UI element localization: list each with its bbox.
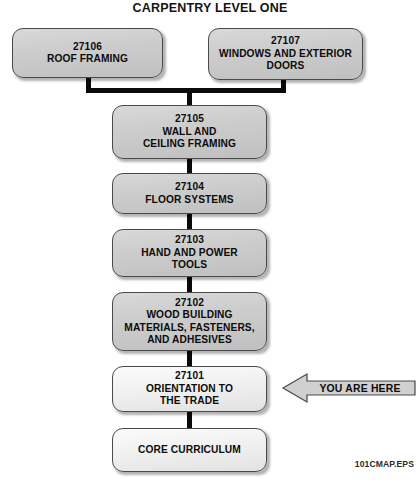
node-27107-number: 27107 [271, 35, 300, 47]
node-27101-line-2: THE TRADE [160, 395, 219, 407]
connector-top-bus [86, 88, 286, 93]
page-title: CARPENTRY LEVEL ONE [0, 1, 420, 15]
node-27106-number: 27106 [73, 41, 102, 53]
node-27101-line-1: ORIENTATION TO [146, 383, 233, 395]
node-27106[interactable]: 27106 ROOF FRAMING [12, 28, 163, 78]
node-27102-line-3: AND ADHESIVES [147, 334, 232, 346]
node-27103-line-1: HAND AND POWER [141, 247, 238, 259]
node-27105-line-1: WALL AND [163, 126, 217, 138]
node-27104-number: 27104 [175, 181, 204, 193]
node-27103-number: 27103 [175, 234, 204, 246]
node-core-curriculum-label: CORE CURRICULUM [138, 444, 241, 456]
node-27105-number: 27105 [175, 113, 204, 125]
node-27102[interactable]: 27102 WOOD BUILDING MATERIALS, FASTENERS… [112, 292, 267, 351]
node-core-curriculum[interactable]: CORE CURRICULUM [112, 428, 267, 472]
node-27107-line-1: WINDOWS AND EXTERIOR [219, 48, 352, 60]
node-27103[interactable]: 27103 HAND AND POWER TOOLS [112, 229, 267, 277]
node-27103-line-2: TOOLS [172, 259, 207, 271]
node-27102-line-2: MATERIALS, FASTENERS, [124, 322, 254, 334]
node-27101-number: 27101 [175, 370, 204, 382]
you-are-here-callout: YOU ARE HERE [283, 370, 416, 406]
node-27107-line-2: DOORS [267, 60, 305, 72]
carpentry-level-one-flowchart: CARPENTRY LEVEL ONE 27106 ROOF FRAMING 2… [0, 0, 420, 499]
node-27101[interactable]: 27101 ORIENTATION TO THE TRADE [112, 366, 267, 412]
node-27105[interactable]: 27105 WALL AND CEILING FRAMING [112, 105, 267, 159]
node-27102-line-1: WOOD BUILDING [146, 309, 232, 321]
node-27104-line-1: FLOOR SYSTEMS [145, 194, 233, 206]
node-27102-number: 27102 [175, 297, 204, 309]
figure-id-label: 101CMAP.EPS [355, 459, 414, 469]
node-27107[interactable]: 27107 WINDOWS AND EXTERIOR DOORS [208, 28, 363, 80]
left-arrow-icon [283, 370, 416, 406]
node-27105-line-2: CEILING FRAMING [143, 138, 236, 150]
node-27104[interactable]: 27104 FLOOR SYSTEMS [112, 173, 267, 214]
node-27106-line-1: ROOF FRAMING [47, 53, 128, 65]
